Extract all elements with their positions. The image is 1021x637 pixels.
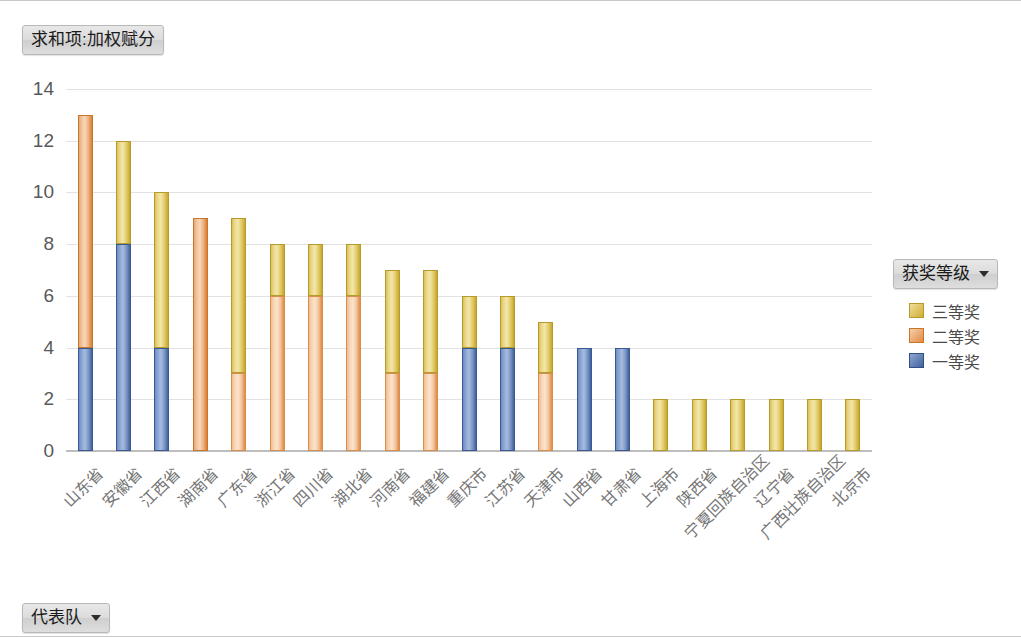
y-axis: 02468101214	[14, 89, 54, 451]
bar-column[interactable]	[653, 399, 668, 451]
bar-column[interactable]	[615, 348, 630, 451]
chevron-down-icon[interactable]	[91, 615, 101, 621]
bar-segment[interactable]	[385, 373, 400, 451]
bar-column[interactable]	[116, 141, 131, 451]
legend-item[interactable]: 二等奖	[893, 323, 1015, 348]
x-axis-tick-label: 江西省	[134, 461, 185, 512]
y-axis-tick-label: 10	[14, 181, 54, 203]
bar-segment[interactable]	[154, 348, 169, 451]
legend-item-label: 一等奖	[932, 349, 980, 373]
y-axis-tick-label: 6	[14, 285, 54, 307]
bar-column[interactable]	[346, 244, 361, 451]
y-axis-tick-label: 4	[14, 337, 54, 359]
value-field-button[interactable]: 求和项:加权赋分	[22, 25, 164, 55]
x-axis-tick-label: 广东省	[211, 461, 262, 512]
legend-title-label: 获奖等级	[902, 263, 970, 284]
bar-segment[interactable]	[807, 399, 822, 451]
bar-segment[interactable]	[231, 218, 246, 373]
x-axis-tick-label: 甘肃省	[595, 461, 646, 512]
x-axis-tick-label: 四川省	[287, 461, 338, 512]
bar-column[interactable]	[231, 218, 246, 451]
pivot-chart-container: 求和项:加权赋分 02468101214 山东省安徽省江西省湖南省广东省浙江省四…	[0, 0, 1021, 637]
bar-segment[interactable]	[769, 399, 784, 451]
bar-segment[interactable]	[462, 296, 477, 348]
y-axis-tick-label: 2	[14, 388, 54, 410]
bar-segment[interactable]	[231, 373, 246, 451]
bar-segment[interactable]	[116, 244, 131, 451]
bar-column[interactable]	[500, 296, 515, 451]
x-axis-tick-label: 福建省	[403, 461, 454, 512]
bar-segment[interactable]	[500, 348, 515, 451]
bar-segment[interactable]	[500, 296, 515, 348]
legend-entries: 三等奖二等奖一等奖	[893, 298, 1015, 373]
bar-segment[interactable]	[193, 218, 208, 451]
y-axis-tick-label: 14	[14, 78, 54, 100]
bar-segment[interactable]	[538, 373, 553, 451]
legend-color-swatch	[909, 353, 924, 368]
bar-column[interactable]	[78, 115, 93, 451]
bar-column[interactable]	[577, 348, 592, 451]
bar-segment[interactable]	[308, 244, 323, 296]
x-axis: 山东省安徽省江西省湖南省广东省浙江省四川省湖北省河南省福建省重庆市江苏省天津市山…	[66, 453, 872, 583]
bar-column[interactable]	[270, 244, 285, 451]
legend-item[interactable]: 一等奖	[893, 348, 1015, 373]
y-axis-tick-label: 0	[14, 440, 54, 462]
bar-column[interactable]	[462, 296, 477, 451]
bar-segment[interactable]	[346, 244, 361, 296]
bar-column[interactable]	[769, 399, 784, 451]
bar-segment[interactable]	[346, 296, 361, 451]
legend-item-label: 二等奖	[932, 324, 980, 348]
bar-segment[interactable]	[462, 348, 477, 451]
bar-column[interactable]	[308, 244, 323, 451]
x-axis-tick-label: 河南省	[364, 461, 415, 512]
bar-segment[interactable]	[116, 141, 131, 244]
bar-segment[interactable]	[538, 322, 553, 374]
bar-segment[interactable]	[845, 399, 860, 451]
x-axis-tick-label: 江苏省	[479, 461, 530, 512]
bar-segment[interactable]	[423, 270, 438, 373]
bar-segment[interactable]	[385, 270, 400, 373]
bar-segment[interactable]	[78, 348, 93, 451]
bar-segment[interactable]	[270, 244, 285, 296]
bar-column[interactable]	[193, 218, 208, 451]
bar-column[interactable]	[845, 399, 860, 451]
bar-column[interactable]	[730, 399, 745, 451]
bar-segment[interactable]	[615, 348, 630, 451]
bar-segment[interactable]	[270, 296, 285, 451]
legend-item[interactable]: 三等奖	[893, 298, 1015, 323]
x-axis-tick-label: 湖南省	[172, 461, 223, 512]
bar-segment[interactable]	[308, 296, 323, 451]
x-axis-tick-label: 山西省	[556, 461, 607, 512]
legend-color-swatch	[909, 303, 924, 318]
bar-segment[interactable]	[692, 399, 707, 451]
bar-column[interactable]	[154, 192, 169, 451]
value-field-label: 求和项:加权赋分	[31, 29, 155, 50]
x-axis-tick-label: 重庆市	[441, 461, 492, 512]
chevron-down-icon[interactable]	[979, 271, 989, 277]
category-field-button[interactable]: 代表队	[22, 603, 110, 633]
bar-column[interactable]	[538, 322, 553, 451]
x-axis-tick-label: 上海市	[633, 461, 684, 512]
legend-field-button[interactable]: 获奖等级	[893, 259, 998, 289]
gridline	[66, 141, 872, 142]
x-axis-tick-label: 天津市	[518, 461, 569, 512]
gridline	[66, 244, 872, 245]
bar-column[interactable]	[423, 270, 438, 451]
bar-segment[interactable]	[730, 399, 745, 451]
bar-segment[interactable]	[423, 373, 438, 451]
bar-column[interactable]	[692, 399, 707, 451]
x-axis-tick-label: 浙江省	[249, 461, 300, 512]
legend-item-label: 三等奖	[932, 299, 980, 323]
bar-column[interactable]	[385, 270, 400, 451]
bar-segment[interactable]	[78, 115, 93, 348]
bar-segment[interactable]	[577, 348, 592, 451]
bar-column[interactable]	[807, 399, 822, 451]
category-field-label: 代表队	[31, 607, 82, 628]
legend: 获奖等级 三等奖二等奖一等奖	[893, 259, 1015, 373]
x-axis-tick-label: 安徽省	[96, 461, 147, 512]
bar-segment[interactable]	[154, 192, 169, 347]
bar-segment[interactable]	[653, 399, 668, 451]
x-axis-tick-label: 山东省	[57, 461, 108, 512]
gridline	[66, 451, 872, 452]
y-axis-tick-label: 8	[14, 233, 54, 255]
